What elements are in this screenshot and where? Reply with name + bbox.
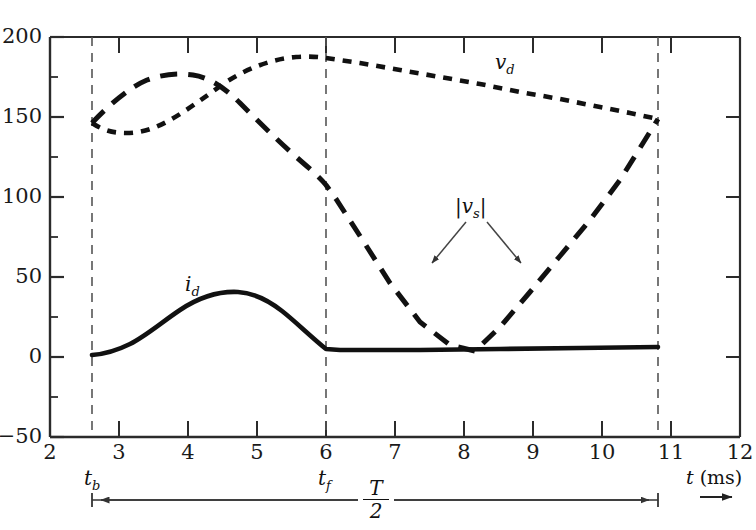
curve-label-id: id — [185, 272, 200, 299]
marker-label-tf-main: t — [318, 466, 326, 490]
curve-label-id-sub: d — [191, 284, 199, 299]
curve-label-vd-sub: d — [506, 62, 514, 77]
y-tick-label-150: 150 — [0, 104, 42, 128]
y-tick-label-100: 100 — [0, 184, 42, 208]
curve-label-vs-suffix: | — [480, 194, 487, 218]
axis-frame — [50, 37, 740, 437]
x-tick-label-9: 9 — [513, 440, 553, 464]
x-axis-title: t (ms) — [686, 466, 742, 488]
curve-label-vd-main: v — [495, 50, 506, 74]
x-axis-ticks-top — [119, 37, 671, 53]
half-period-label: T 2 — [358, 478, 394, 521]
x-tick-label-2: 2 — [30, 440, 70, 464]
vs-arrow-right — [487, 222, 521, 263]
y-axis-ticks-right — [726, 117, 740, 357]
vs-arrow-left — [432, 222, 466, 263]
x-axis-title-units: (ms) — [700, 466, 743, 488]
y-tick-label-50: 50 — [0, 264, 42, 288]
x-tick-label-3: 3 — [99, 440, 139, 464]
x-axis-ticks — [50, 421, 740, 437]
curve-label-vs-prefix: | — [455, 194, 462, 218]
x-tick-label-8: 8 — [444, 440, 484, 464]
x-tick-label-11: 11 — [651, 440, 691, 464]
x-axis-title-variable: t — [686, 466, 694, 488]
half-period-denominator: 2 — [363, 501, 389, 521]
half-period-numerator: T — [363, 478, 389, 498]
x-tick-label-10: 10 — [582, 440, 622, 464]
curve-label-vd: vd — [495, 50, 515, 77]
marker-label-tb: tb — [84, 466, 100, 493]
series-id-curve — [92, 292, 658, 355]
y-tick-label-200: 200 — [0, 24, 42, 48]
curve-label-vs-main: v — [462, 194, 473, 218]
y-tick-label-0: 0 — [0, 344, 42, 368]
x-tick-label-4: 4 — [168, 440, 208, 464]
series-vd-curve — [92, 57, 658, 133]
x-tick-label-7: 7 — [375, 440, 415, 464]
curve-label-vs: |vs| — [455, 194, 486, 221]
marker-label-tf: tf — [318, 466, 331, 493]
x-tick-label-5: 5 — [237, 440, 277, 464]
marker-label-tb-main: t — [84, 466, 92, 490]
y-axis-ticks — [50, 37, 64, 437]
curve-label-vs-sub: s — [473, 206, 480, 221]
marker-label-tb-sub: b — [92, 478, 100, 493]
x-tick-label-6: 6 — [306, 440, 346, 464]
x-tick-label-12: 12 — [720, 440, 756, 464]
marker-label-tf-sub: f — [326, 478, 331, 493]
